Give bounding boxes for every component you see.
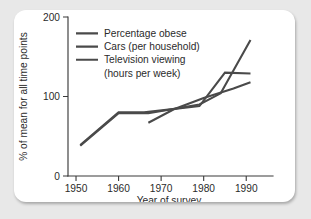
y-tick-label-200: 200 <box>43 12 60 23</box>
series-line-0 <box>148 82 250 123</box>
x-tick-label-1970: 1970 <box>150 183 173 194</box>
y-tick-label-100: 100 <box>43 91 60 102</box>
line-chart: 010020019501960197019801990Year of surve… <box>14 10 295 202</box>
x-tick-label-1950: 1950 <box>65 183 88 194</box>
y-tick-label-0: 0 <box>54 171 60 182</box>
legend-label-0: Percentage obese <box>104 28 187 39</box>
legend-label-2: Television viewing <box>104 54 186 65</box>
legend-label-3: (hours per week) <box>104 68 180 79</box>
legend-label-1: Cars (per household) <box>104 41 200 52</box>
x-axis-title: Year of survey <box>137 195 203 202</box>
x-tick-label-1990: 1990 <box>235 183 258 194</box>
y-axis-title: % of mean for all time points <box>18 32 29 161</box>
x-tick-label-1980: 1980 <box>192 183 215 194</box>
x-tick-label-1960: 1960 <box>107 183 130 194</box>
figure-card: 010020019501960197019801990Year of surve… <box>14 10 295 202</box>
series-line-1 <box>80 73 250 145</box>
